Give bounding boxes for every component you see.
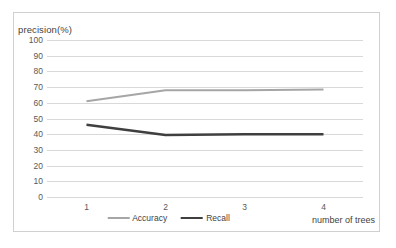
- legend-item-accuracy[interactable]: Accuracy: [107, 214, 167, 223]
- y-axis-tick-labels: 1009080706050403020100: [19, 40, 43, 197]
- chart-container: precision(%) 1009080706050403020100 1234…: [13, 12, 380, 232]
- y-axis-tick-label: 80: [19, 67, 43, 76]
- y-axis-tick-label: 90: [19, 51, 43, 60]
- y-axis-tick-label: 30: [19, 146, 43, 155]
- y-axis-tick-label: 0: [19, 193, 43, 202]
- x-axis-tick-label: 4: [321, 203, 326, 212]
- legend-line-icon: [181, 217, 203, 219]
- legend-line-icon: [107, 217, 129, 219]
- y-axis-tick-label: 40: [19, 130, 43, 139]
- y-axis-tick-label: 50: [19, 114, 43, 123]
- x-axis-tick-label: 2: [163, 203, 168, 212]
- legend-label: Recall: [206, 214, 230, 223]
- legend-item-recall[interactable]: Recall: [181, 214, 230, 223]
- x-axis-tick-label: 3: [242, 203, 247, 212]
- series-line-accuracy: [87, 89, 324, 101]
- y-axis-tick-label: 60: [19, 99, 43, 108]
- gridline: [47, 197, 363, 198]
- series-lines: [47, 40, 363, 197]
- y-axis-tick-label: 20: [19, 161, 43, 170]
- series-line-recall: [87, 125, 324, 135]
- y-axis-tick-label: 100: [19, 36, 43, 45]
- y-axis-title: precision(%): [18, 24, 72, 35]
- x-axis-title: number of trees: [312, 215, 375, 225]
- plot-area: [47, 40, 363, 197]
- legend-label: Accuracy: [132, 214, 167, 223]
- y-axis-tick-label: 10: [19, 177, 43, 186]
- chart-legend: AccuracyRecall: [107, 214, 230, 223]
- y-axis-tick-label: 70: [19, 83, 43, 92]
- x-axis-tick-label: 1: [84, 203, 89, 212]
